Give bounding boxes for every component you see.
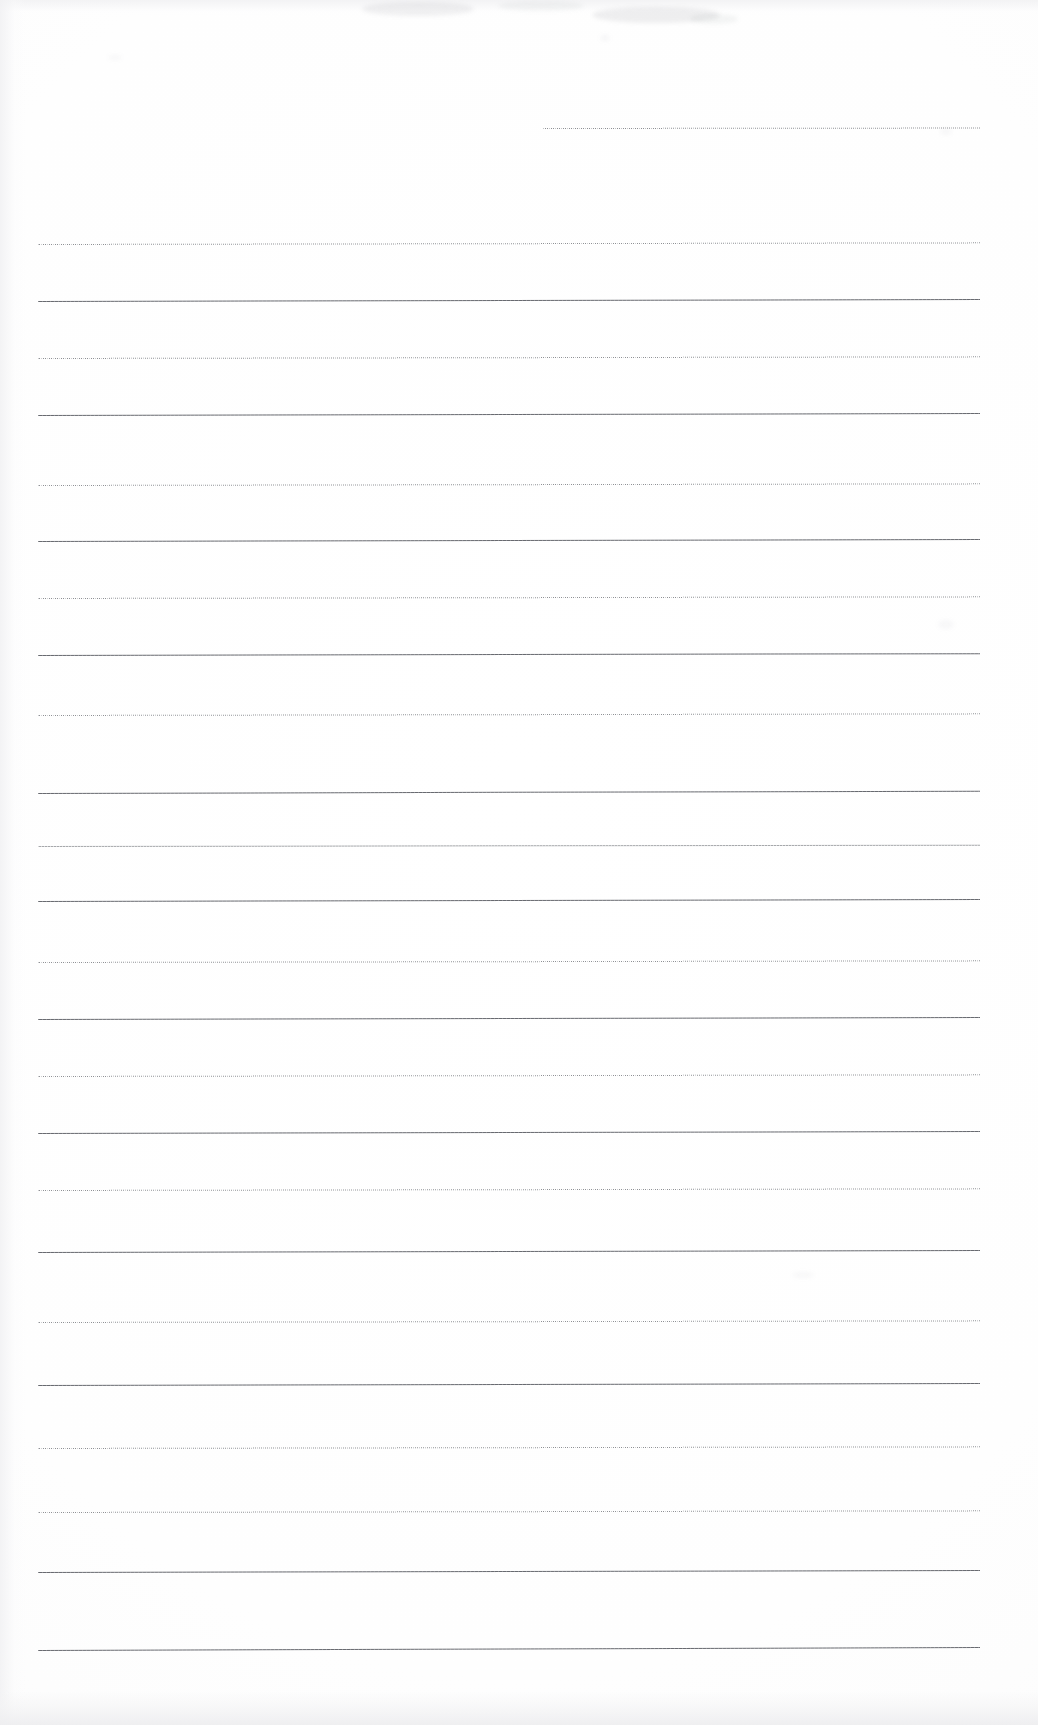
scan-speck-upper (600, 35, 610, 41)
scan-smudge-top-center (498, 1, 584, 11)
scan-speck-right (940, 128, 952, 135)
rule-partial-header (543, 128, 980, 129)
scan-smudge-top-left (362, 2, 474, 16)
scan-left-edge-shading (0, 0, 26, 1725)
scan-bottom-edge-shading (0, 1691, 1038, 1725)
scan-speck-left (108, 55, 122, 60)
scan-top-edge-shading (0, 0, 1038, 16)
scanned-page (0, 0, 1038, 1725)
scan-smudge-top-right (592, 7, 720, 23)
writing-area[interactable] (38, 200, 980, 1660)
scan-smudge-top-far (690, 14, 738, 24)
